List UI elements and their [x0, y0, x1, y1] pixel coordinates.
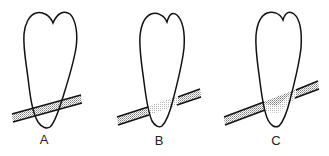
panel-label-b: B — [155, 133, 164, 148]
panel-label-a: A — [40, 132, 49, 147]
panel-c — [224, 12, 319, 127]
panel-b — [117, 13, 201, 126]
panel-a — [12, 12, 82, 128]
panel-label-c: C — [271, 133, 280, 148]
tooth-diagram-figure: A B C — [0, 0, 329, 156]
band-fill — [12, 95, 82, 122]
band-fill — [224, 81, 319, 125]
